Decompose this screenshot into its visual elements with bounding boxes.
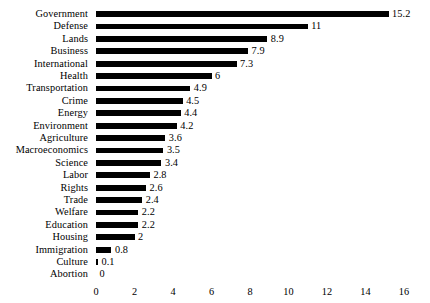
category-label: Labor: [63, 169, 88, 181]
bar-value-label: 4.9: [194, 82, 207, 94]
bar-row: Culture0.1: [0, 256, 430, 268]
bar-value-label: 2.6: [150, 182, 163, 194]
bar: [96, 222, 138, 228]
bar-value-label: 8.9: [271, 33, 284, 45]
bar: [96, 36, 267, 42]
bar-value-label: 11: [311, 20, 321, 32]
bar: [96, 172, 150, 178]
bar-value-label: 2: [138, 231, 143, 243]
category-label: Abortion: [50, 268, 88, 280]
x-axis-tick-label: 16: [399, 284, 409, 300]
x-axis-tick-label: 8: [247, 284, 252, 300]
plot-area: Government15.2Defense11Lands8.9Business7…: [0, 0, 430, 303]
bar-value-label: 6: [215, 70, 220, 82]
bar-value-label: 4.4: [184, 107, 197, 119]
bar: [96, 11, 389, 17]
bar-row: Government15.2: [0, 8, 430, 20]
bar-value-label: 0: [100, 268, 105, 280]
bar-value-label: 7.9: [252, 45, 265, 57]
bar-row: Health6: [0, 70, 430, 82]
bar-chart: Government15.2Defense11Lands8.9Business7…: [0, 0, 430, 303]
bar-value-label: 4.5: [186, 95, 199, 107]
bar-row: Business7.9: [0, 45, 430, 57]
bar: [96, 86, 190, 92]
bar: [96, 135, 165, 141]
bar: [96, 48, 248, 54]
x-axis-tick-label: 6: [209, 284, 214, 300]
x-axis-tick-label: 14: [360, 284, 370, 300]
bar: [96, 61, 237, 67]
x-axis: 0246810121416: [0, 284, 430, 300]
x-axis-tick-label: 12: [322, 284, 332, 300]
x-axis-tick-label: 4: [170, 284, 175, 300]
bar-row: International7.3: [0, 58, 430, 70]
bar-value-label: 3.5: [167, 144, 180, 156]
bar-row: Environment4.2: [0, 120, 430, 132]
bar-row: Defense11: [0, 20, 430, 32]
bar: [96, 73, 212, 79]
bar: [96, 185, 146, 191]
category-label: Energy: [58, 107, 88, 119]
category-label: Trade: [64, 194, 88, 206]
x-axis-tick-label: 0: [93, 284, 98, 300]
bar-value-label: 2.8: [153, 169, 166, 181]
bar-row: Rights2.6: [0, 182, 430, 194]
bar-row: Education2.2: [0, 219, 430, 231]
category-label: International: [34, 58, 88, 70]
category-label: Government: [36, 8, 88, 20]
bar-value-label: 3.4: [165, 157, 178, 169]
bar-value-label: 0.8: [115, 244, 128, 256]
bar-row: Immigration0.8: [0, 244, 430, 256]
bar-row: Labor2.8: [0, 169, 430, 181]
bar-row: Housing2: [0, 231, 430, 243]
category-label: Macroeconomics: [16, 144, 88, 156]
bar: [96, 259, 98, 265]
bar-value-label: 2.2: [142, 219, 155, 231]
category-label: Crime: [62, 95, 88, 107]
category-label: Housing: [52, 231, 88, 243]
bar-value-label: 4.2: [180, 120, 193, 132]
bar: [96, 98, 183, 104]
bar-row: Agriculture3.6: [0, 132, 430, 144]
category-label: Immigration: [35, 244, 88, 256]
bar-row: Energy4.4: [0, 107, 430, 119]
category-label: Lands: [62, 33, 88, 45]
bar: [96, 110, 181, 116]
bar-value-label: 7.3: [240, 58, 253, 70]
bar-row: Abortion0: [0, 268, 430, 280]
bar-value-label: 2.2: [142, 206, 155, 218]
bar: [96, 210, 138, 216]
bar: [96, 24, 308, 30]
bar: [96, 123, 177, 129]
bar: [96, 197, 142, 203]
bar-row: Lands8.9: [0, 33, 430, 45]
bar-row: Crime4.5: [0, 95, 430, 107]
category-label: Health: [60, 70, 88, 82]
bar-row: Science3.4: [0, 157, 430, 169]
bar: [96, 234, 135, 240]
bar-row: Trade2.4: [0, 194, 430, 206]
bar: [96, 247, 111, 253]
category-label: Education: [45, 219, 88, 231]
bar-row: Transportation4.9: [0, 82, 430, 94]
bar-value-label: 0.1: [101, 256, 114, 268]
category-label: Welfare: [55, 206, 88, 218]
bar-value-label: 2.4: [146, 194, 159, 206]
category-label: Defense: [54, 20, 88, 32]
bar: [96, 160, 161, 166]
category-label: Agriculture: [39, 132, 88, 144]
bar-row: Macroeconomics3.5: [0, 144, 430, 156]
category-label: Culture: [56, 256, 88, 268]
bar-value-label: 3.6: [169, 132, 182, 144]
category-label: Rights: [61, 182, 89, 194]
category-label: Transportation: [26, 82, 88, 94]
bar-value-label: 15.2: [392, 8, 410, 20]
bar-row: Welfare2.2: [0, 206, 430, 218]
category-label: Environment: [33, 120, 88, 132]
category-label: Science: [55, 157, 88, 169]
x-axis-tick-label: 10: [283, 284, 293, 300]
category-label: Business: [51, 45, 88, 57]
bar: [96, 148, 163, 154]
x-axis-tick-label: 2: [132, 284, 137, 300]
